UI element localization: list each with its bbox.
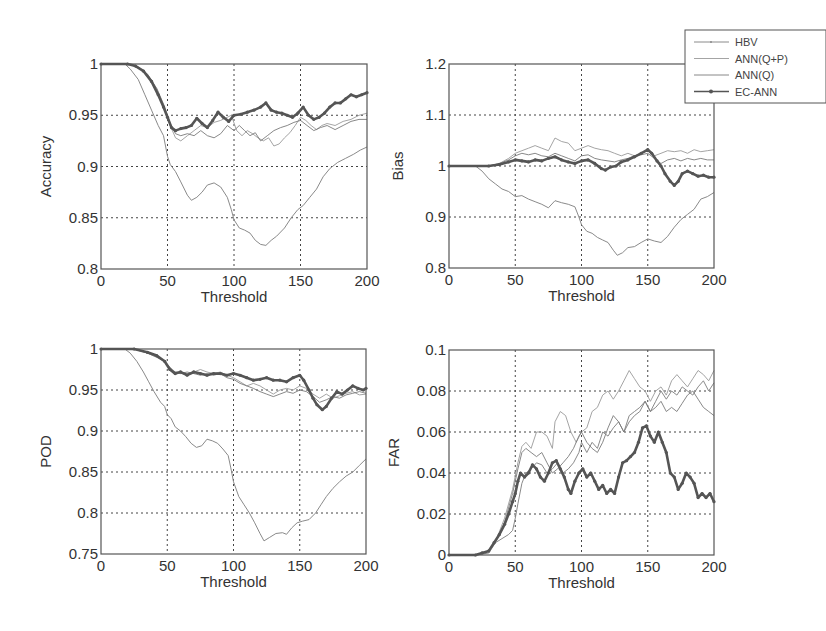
data-marker <box>323 112 326 115</box>
x-tick-label: 200 <box>701 271 726 288</box>
data-marker <box>503 523 506 526</box>
data-marker <box>614 164 617 167</box>
data-marker <box>516 480 519 483</box>
data-marker <box>225 374 228 377</box>
data-marker <box>286 114 289 117</box>
data-marker <box>265 376 268 379</box>
data-marker <box>585 476 588 479</box>
data-marker <box>669 471 672 474</box>
data-marker <box>573 480 576 483</box>
data-marker <box>573 162 576 165</box>
subplot-bias: 0501001502000.80.911.11.2ThresholdBias <box>389 55 727 304</box>
data-marker <box>663 172 666 175</box>
data-marker <box>168 368 171 371</box>
data-marker <box>179 127 182 130</box>
y-tick-label: 0.08 <box>417 382 446 399</box>
data-marker <box>534 158 537 161</box>
y-tick-label: 0.9 <box>425 208 446 225</box>
data-marker <box>146 351 149 354</box>
y-axis-label: Accuracy <box>37 135 54 197</box>
data-marker <box>649 435 652 438</box>
data-marker <box>609 488 612 491</box>
data-marker <box>555 459 558 462</box>
data-marker <box>487 164 490 167</box>
y-tick-label: 1 <box>90 55 98 72</box>
y-tick-label: 0.1 <box>425 341 446 358</box>
data-marker <box>264 101 267 104</box>
data-marker <box>339 101 342 104</box>
data-marker <box>246 111 249 114</box>
data-marker <box>298 374 301 377</box>
data-marker <box>344 97 347 100</box>
data-marker <box>157 93 160 96</box>
data-marker <box>258 378 261 381</box>
x-axis-label: Threshold <box>200 573 267 590</box>
data-marker <box>487 549 490 552</box>
data-marker <box>604 168 607 171</box>
x-tick-label: 0 <box>97 272 105 289</box>
data-marker <box>691 172 694 175</box>
data-marker <box>163 360 166 363</box>
data-marker <box>492 541 495 544</box>
data-marker <box>580 159 583 162</box>
data-marker <box>252 379 255 382</box>
legend: HBVANN(Q+P)ANN(Q)EC-ANN <box>685 30 826 103</box>
data-marker <box>351 384 354 387</box>
y-tick-label: 0.9 <box>77 422 98 439</box>
data-marker <box>519 471 522 474</box>
legend-marker-icon <box>710 41 712 43</box>
x-tick-label: 100 <box>221 557 246 574</box>
data-marker <box>341 393 344 396</box>
data-marker <box>185 126 188 129</box>
y-tick-label: 0.95 <box>69 106 98 123</box>
data-marker <box>200 122 203 125</box>
data-marker <box>498 533 501 536</box>
data-marker <box>523 476 526 479</box>
x-axis-label: Threshold <box>201 288 268 305</box>
data-marker <box>700 492 703 495</box>
data-marker <box>507 512 510 515</box>
data-marker <box>481 551 484 554</box>
x-axis-label: Threshold <box>548 574 615 591</box>
legend-label: ANN(Q) <box>735 69 774 81</box>
x-tick-label: 100 <box>569 271 594 288</box>
y-tick-label: 0.75 <box>69 545 98 562</box>
y-axis-label: Bias <box>389 151 406 180</box>
data-marker <box>609 165 612 168</box>
data-marker <box>291 116 294 119</box>
y-tick-label: 0 <box>438 546 446 563</box>
data-marker <box>335 390 338 393</box>
data-marker <box>535 467 538 470</box>
data-marker <box>531 463 534 466</box>
data-marker <box>222 116 225 119</box>
data-marker <box>275 111 278 114</box>
data-marker <box>134 64 137 67</box>
data-marker <box>142 70 145 73</box>
y-tick-label: 0.04 <box>417 464 446 481</box>
subplot-accuracy: 0501001502000.80.850.90.951ThresholdAccu… <box>37 55 380 305</box>
data-marker <box>665 451 668 454</box>
data-marker <box>186 374 189 377</box>
data-marker <box>232 114 235 117</box>
legend-label: EC-ANN <box>735 86 777 98</box>
data-marker <box>577 471 580 474</box>
data-marker <box>328 105 331 108</box>
data-marker <box>567 488 570 491</box>
x-tick-label: 50 <box>507 558 524 575</box>
data-marker <box>581 467 584 470</box>
data-marker <box>640 152 643 155</box>
data-marker <box>232 372 235 375</box>
y-tick-label: 0.95 <box>69 381 98 398</box>
data-marker <box>219 372 222 375</box>
data-marker <box>211 119 214 122</box>
data-marker <box>252 109 255 112</box>
data-marker <box>162 105 165 108</box>
data-marker <box>641 426 644 429</box>
x-tick-label: 150 <box>635 558 660 575</box>
data-marker <box>601 484 604 487</box>
data-marker <box>626 158 629 161</box>
data-marker <box>356 387 359 390</box>
data-marker <box>563 476 566 479</box>
data-marker <box>321 408 324 411</box>
y-tick-label: 0.8 <box>425 259 446 276</box>
